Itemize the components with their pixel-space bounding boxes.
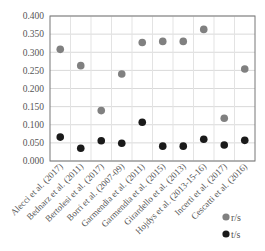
legend: r/s t/s [222,212,241,240]
y-tick-label: 0.400 [23,11,45,21]
data-point [220,141,228,149]
data-point [179,38,187,46]
y-tick-label: 0.200 [23,84,45,94]
legend-item-t-s: t/s [222,229,240,240]
y-axis-ticks: 0.0000.0500.1000.1500.2000.2500.3000.350… [23,11,45,166]
data-point [241,65,249,73]
data-point [200,26,208,34]
data-point [118,70,126,78]
data-point [56,133,64,141]
data-point [118,139,126,147]
y-tick-label: 0.250 [23,66,45,76]
y-tick-label: 0.100 [23,120,45,130]
data-point [97,137,105,145]
legend-label-r-s: r/s [231,212,241,223]
legend-marker-t-s [222,230,229,237]
x-axis-labels: Alecci et al. (2017)Bednarz et al. (2011… [8,161,249,236]
data-point [159,38,167,46]
data-point [159,142,167,150]
data-point [200,135,208,143]
data-point [77,145,85,153]
y-tick-label: 0.300 [23,48,45,58]
data-point [56,46,64,54]
data-point [77,62,85,70]
y-tick-label: 0.150 [23,102,45,112]
grid-lines [50,16,255,161]
data-point [179,142,187,150]
y-tick-label: 0.000 [23,156,45,166]
y-tick-label: 0.350 [23,29,45,39]
scatter-chart: 0.0000.0500.1000.1500.2000.2500.3000.350… [0,0,265,251]
data-point [241,137,249,145]
legend-label-t-s: t/s [231,229,241,240]
legend-marker-r-s [222,213,229,220]
data-point [97,107,105,115]
data-point [138,39,146,47]
data-point [138,118,146,126]
legend-item-r-s: r/s [222,212,241,223]
y-tick-label: 0.050 [23,138,45,148]
data-point [220,114,228,122]
